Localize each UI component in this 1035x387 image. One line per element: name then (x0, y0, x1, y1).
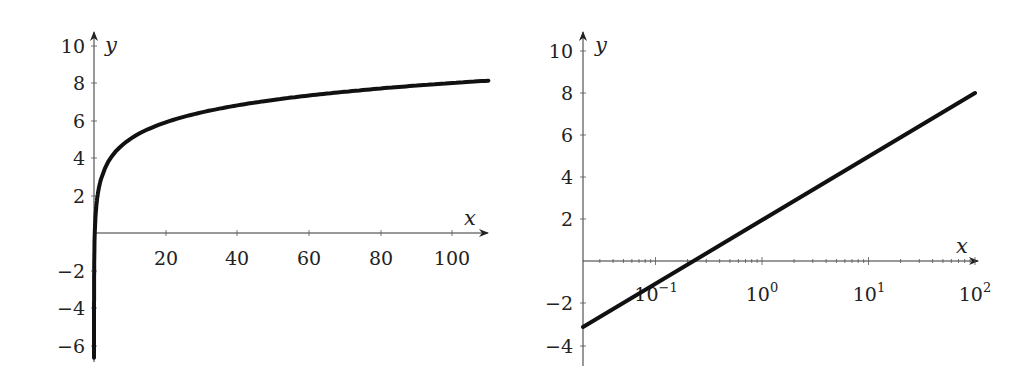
left-x-tick-labels: 20 40 60 80 100 (154, 247, 470, 269)
left-y-axis-label: y (104, 33, 118, 57)
left-y-tick-labels: 10 8 6 4 2 −2 −4 −6 (57, 35, 85, 357)
svg-text:6: 6 (561, 124, 573, 146)
svg-text:−4: −4 (545, 335, 573, 357)
svg-text:4: 4 (73, 147, 85, 169)
tick-1e2: 102 (959, 280, 991, 305)
svg-text:−6: −6 (57, 335, 85, 357)
left-x-axis-label: x (464, 206, 476, 230)
svg-text:10: 10 (61, 35, 85, 57)
svg-text:2: 2 (561, 208, 573, 230)
svg-text:100: 100 (434, 247, 470, 269)
right-x-tick-labels: 10−1 100 101 102 (634, 280, 991, 305)
svg-text:−4: −4 (57, 297, 85, 319)
svg-text:60: 60 (297, 247, 321, 269)
left-chart: 10 8 6 4 2 −2 −4 −6 20 40 60 80 100 y x (57, 32, 488, 362)
svg-text:80: 80 (369, 247, 393, 269)
right-chart: 10 8 6 4 2 −2 −4 10−1 100 101 102 y x (545, 32, 991, 366)
right-y-axis-label: y (594, 33, 608, 57)
left-curve (94, 81, 488, 358)
svg-text:−2: −2 (57, 260, 85, 282)
svg-text:−2: −2 (545, 292, 573, 314)
tick-1e0: 100 (746, 280, 778, 305)
figure: 10 8 6 4 2 −2 −4 −6 20 40 60 80 100 y x (0, 0, 1035, 387)
svg-text:8: 8 (73, 72, 85, 94)
svg-text:2: 2 (73, 185, 85, 207)
svg-text:8: 8 (561, 82, 573, 104)
svg-text:20: 20 (154, 247, 178, 269)
right-x-axis-label: x (956, 234, 968, 258)
svg-text:10: 10 (549, 40, 573, 62)
right-y-tick-labels: 10 8 6 4 2 −2 −4 (545, 40, 573, 357)
svg-text:4: 4 (561, 166, 573, 188)
svg-text:40: 40 (225, 247, 249, 269)
right-line (583, 93, 975, 327)
svg-text:6: 6 (73, 110, 85, 132)
tick-1e1: 101 (853, 280, 885, 305)
